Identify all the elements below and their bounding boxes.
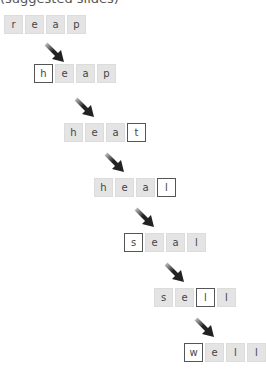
letter-tile: l (217, 288, 236, 307)
word-row-heap: heap (34, 64, 116, 83)
letter-tile: a (166, 233, 185, 252)
word-row-sell: sell (154, 288, 236, 307)
letter-tile: e (145, 233, 164, 252)
word-row-seal: seal (124, 233, 206, 252)
letter-tile: l (247, 343, 266, 362)
letter-tile: p (67, 15, 86, 34)
letter-tile: h (64, 123, 83, 142)
letter-tile: e (175, 288, 194, 307)
word-row-reap: reap (4, 15, 86, 34)
letter-tile-changed: w (184, 343, 203, 362)
letter-tile: s (154, 288, 173, 307)
letter-tile-changed: t (127, 123, 146, 142)
arrow-down-right-icon (164, 262, 186, 284)
letter-tile: e (25, 15, 44, 34)
letter-tile-changed: s (124, 233, 143, 252)
letter-tile-changed: h (34, 64, 53, 83)
arrow-down-right-icon (134, 207, 156, 229)
letter-tile: a (46, 15, 65, 34)
word-row-heal: heal (94, 178, 176, 197)
letter-tile: h (94, 178, 113, 197)
letter-tile: e (55, 64, 74, 83)
letter-tile: p (97, 64, 116, 83)
letter-tile-changed: l (196, 288, 215, 307)
letter-tile: a (136, 178, 155, 197)
letter-tile: l (187, 233, 206, 252)
arrow-down-right-icon (194, 317, 216, 339)
arrow-down-right-icon (74, 97, 96, 119)
letter-tile: a (76, 64, 95, 83)
word-row-heat: heat (64, 123, 146, 142)
letter-tile-changed: l (157, 178, 176, 197)
letter-tile: e (205, 343, 224, 362)
arrow-down-right-icon (44, 42, 66, 64)
arrow-down-right-icon (104, 152, 126, 174)
letter-tile: a (106, 123, 125, 142)
letter-tile: e (85, 123, 104, 142)
caption: (suggested slides) (0, 0, 119, 6)
letter-tile: r (4, 15, 23, 34)
letter-tile: e (115, 178, 134, 197)
letter-tile: l (226, 343, 245, 362)
word-row-well: well (184, 343, 266, 362)
